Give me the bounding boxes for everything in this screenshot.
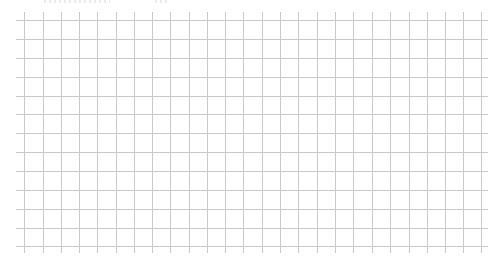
grid-lines [0,0,499,263]
graph-paper-grid [0,0,499,263]
